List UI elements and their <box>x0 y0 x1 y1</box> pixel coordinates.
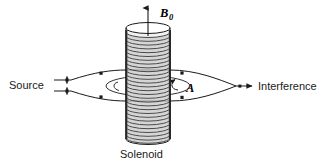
beam-upper-out <box>170 70 236 86</box>
marker-slit-lower <box>65 89 68 92</box>
marker-lower-right <box>180 96 183 99</box>
aharonov-bohm-diagram: B 0 <box>0 0 322 165</box>
beam-upper-in <box>71 70 126 80</box>
marker-upper-right <box>180 71 183 74</box>
potential-circulation-arrow <box>172 80 178 91</box>
solenoid <box>125 23 171 145</box>
marker-merge <box>238 85 241 88</box>
solenoid-label: Solenoid <box>120 148 163 160</box>
marker-upper-left <box>99 72 102 75</box>
potential-circulation-arc-left <box>114 82 119 91</box>
field-label: B <box>159 6 168 20</box>
field-label-subscript: 0 <box>169 12 174 22</box>
interference-label: Interference <box>258 80 317 92</box>
source-label: Source <box>9 79 44 91</box>
potential-label: A <box>185 81 194 95</box>
beam-lower-out <box>170 86 236 101</box>
marker-lower-left <box>99 95 102 98</box>
solenoid-windings <box>125 30 171 143</box>
marker-slit-upper <box>65 78 68 81</box>
figure-container: B 0 <box>0 0 322 165</box>
